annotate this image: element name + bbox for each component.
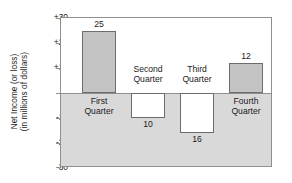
y-tick-mark-m20 bbox=[56, 143, 61, 144]
bar-category-fourth-quarter-line-1: Fourth bbox=[217, 96, 275, 106]
bar-chart-figure: Net Income (or loss) (in millions of dol… bbox=[0, 0, 292, 183]
bar-category-third-quarter-line-2: Quarter bbox=[168, 74, 226, 84]
bar-category-first-quarter: First Quarter bbox=[70, 96, 128, 116]
y-tick-mark-0 bbox=[56, 93, 61, 94]
bar-category-third-quarter: Third Quarter bbox=[168, 64, 226, 84]
y-axis-title: Net Income (or loss) (in millions of dol… bbox=[0, 0, 40, 183]
bar-category-fourth-quarter-line-2: Quarter bbox=[217, 106, 275, 116]
y-tick-mark-10 bbox=[56, 68, 61, 69]
bar-second-quarter[interactable] bbox=[131, 93, 165, 118]
bar-value-fourth-quarter: 12 bbox=[226, 51, 266, 61]
y-tick-mark-m30 bbox=[56, 167, 61, 168]
y-tick-mark-30 bbox=[56, 18, 61, 19]
y-tick-mark-20 bbox=[56, 43, 61, 44]
bar-third-quarter[interactable] bbox=[180, 93, 214, 133]
y-axis-title-line-2: (in millions of dollars) bbox=[20, 52, 30, 131]
bar-value-first-quarter: 25 bbox=[79, 19, 119, 29]
bar-category-first-quarter-line-2: Quarter bbox=[70, 106, 128, 116]
bar-first-quarter[interactable] bbox=[82, 31, 116, 94]
bar-category-first-quarter-line-1: First bbox=[70, 96, 128, 106]
bar-category-third-quarter-line-1: Third bbox=[168, 64, 226, 74]
bar-category-fourth-quarter: Fourth Quarter bbox=[217, 96, 275, 116]
bar-value-third-quarter: 16 bbox=[177, 134, 217, 144]
y-tick-mark-m10 bbox=[56, 118, 61, 119]
plot-area: 25 First Quarter 10 Second Quarter 16 Th… bbox=[60, 17, 272, 167]
bar-fourth-quarter[interactable] bbox=[229, 63, 263, 93]
zero-baseline bbox=[61, 93, 271, 94]
y-axis-title-line-1: Net Income (or loss) bbox=[10, 54, 20, 130]
bar-value-second-quarter: 10 bbox=[128, 119, 168, 129]
